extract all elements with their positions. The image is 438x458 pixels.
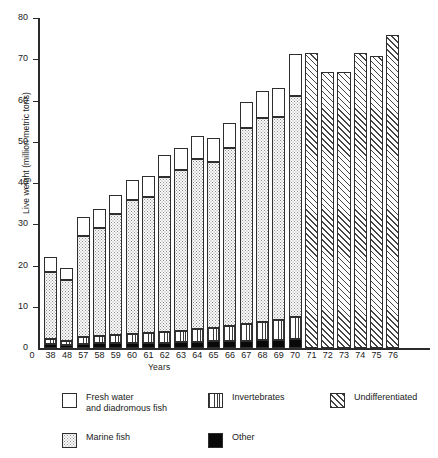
bar-segment bbox=[142, 333, 155, 342]
bar-segment bbox=[60, 268, 73, 280]
legend-swatch-icon bbox=[330, 393, 345, 408]
bar-segment bbox=[158, 177, 171, 332]
bar-segment bbox=[256, 118, 269, 322]
bar-segment bbox=[289, 96, 302, 317]
legend-label: Marine fish bbox=[86, 432, 130, 443]
bar-segment bbox=[370, 56, 383, 348]
legend-swatch-icon bbox=[62, 433, 77, 448]
legend-label: Invertebrates bbox=[232, 392, 285, 403]
bar-segment bbox=[321, 72, 334, 348]
legend-label: Other bbox=[232, 432, 255, 443]
bar-segment bbox=[126, 343, 139, 348]
bar-segment bbox=[44, 272, 57, 339]
bar-segment bbox=[44, 339, 57, 344]
bar-segment bbox=[289, 54, 302, 96]
bar-segment bbox=[191, 136, 204, 159]
x-tick-label: 76 bbox=[385, 350, 401, 360]
bar-segment bbox=[93, 336, 106, 343]
bar-segment bbox=[289, 317, 302, 340]
bar-segment bbox=[223, 148, 236, 326]
bar-segment bbox=[191, 159, 204, 330]
x-tick-label: 72 bbox=[320, 350, 336, 360]
x-tick-label: 60 bbox=[124, 350, 140, 360]
bar-segment bbox=[44, 344, 57, 348]
y-tick-mark bbox=[33, 183, 38, 184]
legend-item: Marine fish bbox=[62, 432, 130, 448]
bar-segment bbox=[60, 280, 73, 341]
legend-item: Other bbox=[208, 432, 255, 448]
bar-segment bbox=[240, 341, 253, 348]
x-axis-label: Years bbox=[148, 362, 170, 372]
y-axis-line bbox=[38, 18, 40, 349]
bar-segment bbox=[93, 343, 106, 348]
x-tick-label: 62 bbox=[157, 350, 173, 360]
bar-segment bbox=[93, 228, 106, 337]
bar-segment bbox=[240, 324, 253, 341]
bar-segment bbox=[240, 128, 253, 324]
legend-item: Undifferentiated bbox=[330, 392, 417, 408]
y-tick-label: 80 bbox=[2, 12, 28, 22]
bar-segment bbox=[207, 138, 220, 162]
x-tick-label: 73 bbox=[336, 350, 352, 360]
x-tick-label: 61 bbox=[140, 350, 156, 360]
bar-segment bbox=[191, 329, 204, 341]
bar-segment bbox=[126, 200, 139, 334]
bar-segment bbox=[126, 334, 139, 343]
bar-segment bbox=[191, 342, 204, 348]
bar-segment bbox=[109, 335, 122, 343]
y-tick-label: 60 bbox=[2, 95, 28, 105]
bar-segment bbox=[272, 320, 285, 340]
bar-segment bbox=[60, 345, 73, 348]
x-tick-label: 68 bbox=[255, 350, 271, 360]
x-tick-label: 48 bbox=[59, 350, 75, 360]
legend-item: Fresh water and diadromous fish bbox=[62, 392, 167, 414]
x-tick-label: 63 bbox=[173, 350, 189, 360]
bar-segment bbox=[174, 342, 187, 348]
bar-segment bbox=[223, 123, 236, 149]
bar-segment bbox=[207, 162, 220, 328]
y-tick-label: 30 bbox=[2, 218, 28, 228]
bar-segment bbox=[77, 236, 90, 337]
bar-segment bbox=[223, 341, 236, 348]
y-tick-mark bbox=[33, 101, 38, 102]
x-tick-label: 67 bbox=[238, 350, 254, 360]
bar-segment bbox=[337, 72, 350, 348]
y-tick-mark bbox=[33, 142, 38, 143]
legend-swatch-icon bbox=[208, 433, 223, 448]
bar-segment bbox=[109, 195, 122, 215]
y-tick-mark bbox=[33, 18, 38, 19]
bar-segment bbox=[256, 322, 269, 340]
x-tick-label: 71 bbox=[303, 350, 319, 360]
bar-segment bbox=[44, 257, 57, 272]
bar-segment bbox=[77, 337, 90, 344]
bar-segment bbox=[240, 102, 253, 128]
bar-segment bbox=[142, 197, 155, 333]
bar-segment bbox=[142, 343, 155, 348]
bar-segment bbox=[386, 35, 399, 348]
legend-label: Undifferentiated bbox=[354, 392, 417, 403]
x-tick-label: 66 bbox=[222, 350, 238, 360]
bar-segment bbox=[158, 343, 171, 348]
x-tick-label: 65 bbox=[206, 350, 222, 360]
bar-segment bbox=[207, 341, 220, 348]
x-tick-label: 58 bbox=[92, 350, 108, 360]
x-tick-label: 59 bbox=[108, 350, 124, 360]
y-tick-mark bbox=[33, 307, 38, 308]
y-tick-label: 20 bbox=[2, 260, 28, 270]
bar-segment bbox=[354, 53, 367, 348]
x-tick-label: 38 bbox=[43, 350, 59, 360]
x-tick-label: 57 bbox=[75, 350, 91, 360]
y-axis-label: Live weight (million metric tons) bbox=[21, 43, 31, 263]
x-tick-label: 74 bbox=[352, 350, 368, 360]
bar-segment bbox=[223, 326, 236, 341]
y-tick-mark bbox=[33, 59, 38, 60]
x-tick-label: 69 bbox=[271, 350, 287, 360]
bar-segment bbox=[272, 117, 285, 320]
legend-swatch-icon bbox=[62, 393, 77, 408]
x-tick-label: 70 bbox=[287, 350, 303, 360]
bar-segment bbox=[93, 209, 106, 228]
legend-label: Fresh water and diadromous fish bbox=[86, 392, 167, 414]
bar-segment bbox=[60, 341, 73, 345]
bar-segment bbox=[256, 91, 269, 118]
x-tick-label: 75 bbox=[369, 350, 385, 360]
